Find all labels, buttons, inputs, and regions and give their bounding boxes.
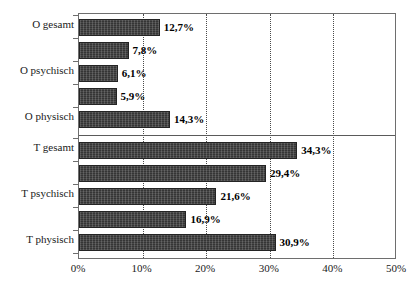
y-axis-category-label: O gesamt <box>0 18 74 30</box>
bar-value-label: 21,6% <box>220 188 250 205</box>
bar-value-label: 30,9% <box>280 234 310 251</box>
y-axis-tick <box>73 15 78 16</box>
y-axis-category-labels: O gesamtO psychischO physischT gesamtT p… <box>0 0 74 286</box>
x-axis-tick-label: 10% <box>122 262 162 275</box>
bar <box>79 65 118 82</box>
bar <box>79 42 129 59</box>
bar <box>79 111 170 128</box>
bar-value-label: 16,9% <box>190 211 220 228</box>
gridline-30 <box>270 14 271 258</box>
y-axis-tick <box>73 207 78 208</box>
y-axis-tick <box>73 61 78 62</box>
bar <box>79 19 160 36</box>
bar <box>79 165 266 182</box>
bar-value-label: 29,4% <box>270 165 300 182</box>
bar <box>79 142 297 159</box>
x-axis-tick-label: 50% <box>376 262 416 275</box>
y-axis-category-label: O physisch <box>0 110 74 122</box>
y-axis-tick <box>73 38 78 39</box>
group-separator-line <box>79 135 395 136</box>
y-axis-category-label: T psychisch <box>0 187 74 199</box>
plot-area: 12,7%7,8%6,1%5,9%14,3%34,3%29,4%21,6%16,… <box>78 13 396 259</box>
bar-value-label: 7,8% <box>133 42 158 59</box>
y-axis-tick <box>73 138 78 139</box>
bar <box>79 234 276 251</box>
bar <box>79 211 186 228</box>
bar-chart: O gesamtO psychischO physischT gesamtT p… <box>0 0 419 286</box>
x-axis-tick-label: 20% <box>185 262 225 275</box>
bar-value-label: 12,7% <box>164 19 194 36</box>
bar-value-label: 34,3% <box>301 142 331 159</box>
y-axis-tick <box>73 161 78 162</box>
bar-value-label: 14,3% <box>174 111 204 128</box>
x-axis-tick-label: 30% <box>249 262 289 275</box>
y-axis-tick <box>73 184 78 185</box>
bar <box>79 188 216 205</box>
bar-value-label: 6,1% <box>122 65 147 82</box>
x-axis-tick-label: 40% <box>312 262 352 275</box>
gridline-40 <box>333 14 334 258</box>
y-axis-tick <box>73 107 78 108</box>
y-axis-tick <box>73 84 78 85</box>
y-axis-tick <box>73 253 78 254</box>
y-axis-category-label: O psychisch <box>0 64 74 76</box>
y-axis-category-label: T physisch <box>0 233 74 245</box>
y-axis-tick <box>73 230 78 231</box>
x-axis-tick-label: 0% <box>58 262 98 275</box>
chart-title-cropped <box>52 0 232 7</box>
bar-value-label: 5,9% <box>121 88 146 105</box>
y-axis-category-label: T gesamt <box>0 141 74 153</box>
bar <box>79 88 117 105</box>
